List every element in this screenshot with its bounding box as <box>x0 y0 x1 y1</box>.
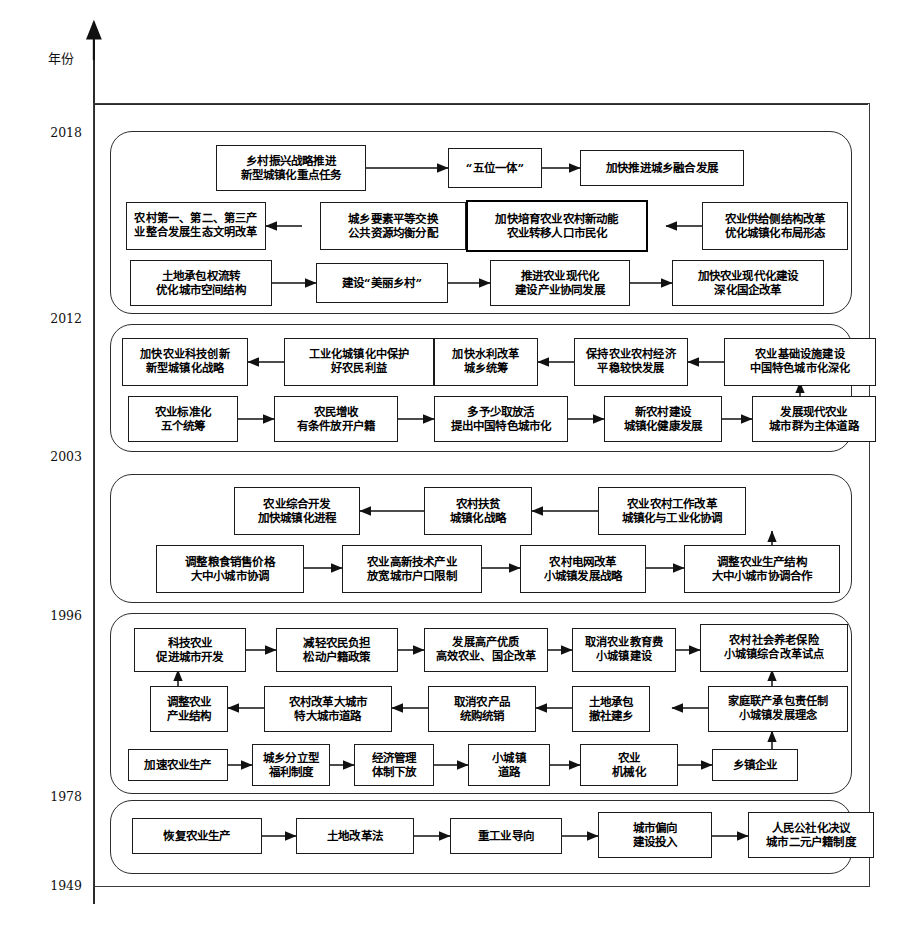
node-line: 提出中国特色城市化 <box>451 419 552 433</box>
node-line: 城乡统筹 <box>452 362 519 376</box>
node-box[interactable]: 工业化城镇化中保护 好农民利益 <box>284 338 434 386</box>
node-box[interactable]: 农业供给侧结构改革 优化城镇化布局形态 <box>702 202 848 250</box>
node-line: 农村扶贫 <box>450 497 506 511</box>
node-box[interactable]: 农业综合开发 加快城镇化进程 <box>234 487 360 535</box>
node-line: 乡镇企业 <box>733 758 778 772</box>
node-line: 多予少取放活 <box>451 405 552 419</box>
node-box[interactable]: 科技农业 促进城市开发 <box>134 628 246 672</box>
node-box[interactable]: 加快水利改革 城乡统筹 <box>434 338 538 386</box>
node-line: 城市群为主体道路 <box>769 419 859 433</box>
node-line: 农民增收 <box>297 405 375 419</box>
node-line: 好农民利益 <box>309 362 410 376</box>
node-box[interactable]: 农业基础设施建设 中国特色城市化深化 <box>724 338 876 386</box>
node-box[interactable]: 加快推进城乡融合发展 <box>580 150 744 186</box>
node-box[interactable]: 恢复农业生产 <box>132 818 262 854</box>
node-box[interactable]: 城乡分立型 福利制度 <box>252 744 330 786</box>
node-box[interactable]: 多予少取放活 提出中国特色城市化 <box>434 396 568 442</box>
node-box[interactable]: 农村电网改革 小城镇发展战略 <box>520 545 646 593</box>
node-box[interactable]: 土地承包 撤社建乡 <box>572 686 650 732</box>
node-box[interactable]: 乡镇企业 <box>712 749 798 781</box>
node-box[interactable]: 农业农村工作改革 城镇化与工业化协调 <box>598 487 746 535</box>
node-box-emphasis[interactable]: 加快培育农业农村新动能 农业转移人口市民化 <box>466 200 648 252</box>
node-box[interactable]: 调整农业 产业结构 <box>150 686 228 732</box>
node-line: 取消农产品 <box>454 695 510 709</box>
node-box[interactable]: 农村改革大城市 特大城市道路 <box>264 686 392 732</box>
node-box[interactable]: 农业 机械化 <box>580 744 678 786</box>
node-box[interactable]: 新农村建设 城镇化健康发展 <box>604 396 722 442</box>
node-line: 有条件放开户籍 <box>297 419 375 433</box>
node-line: 加速农业生产 <box>144 758 211 772</box>
node-line: 建设投入 <box>633 835 678 849</box>
node-line: 小城镇发展理念 <box>728 709 829 723</box>
y-axis-title: 年份 <box>48 48 74 67</box>
node-box[interactable]: 发展高产优质 高效农业、国企改革 <box>424 628 548 672</box>
node-line: 福利制度 <box>263 765 319 779</box>
node-line: 土地承包权流转 <box>156 269 246 283</box>
node-line: 土地承包 <box>589 695 634 709</box>
node-box[interactable]: 推进农业现代化 建设产业协同发展 <box>490 260 630 306</box>
node-line: 机械化 <box>612 765 646 779</box>
node-line: 加快农业科技创新 <box>140 348 230 362</box>
node-box[interactable]: 取消农业教育费 小城镇建设 <box>572 628 676 672</box>
node-line: 经济管理 <box>372 751 417 765</box>
node-box[interactable]: 人民公社化决议 城市二元户籍制度 <box>748 812 874 858</box>
node-line: 家庭联产承包责任制 <box>728 695 829 709</box>
node-line: 大中小城市协调 <box>185 569 275 583</box>
node-box[interactable]: 农民增收 有条件放开户籍 <box>274 396 398 442</box>
node-box[interactable]: 乡村振兴战略推进 新型城镇化重点任务 <box>216 145 366 191</box>
node-box[interactable]: 加速农业生产 <box>128 749 228 781</box>
node-line: 农村社会养老保险 <box>724 634 825 648</box>
node-line: 小城镇综合改革试点 <box>724 648 825 662</box>
node-line: 新型城镇化重点任务 <box>241 168 342 182</box>
node-box[interactable]: 加快农业科技创新 新型城镇化战略 <box>122 338 248 386</box>
node-line: 统购统销 <box>454 709 510 723</box>
node-box[interactable]: 农业高新技术产业 放宽城市户口限制 <box>342 545 482 593</box>
node-box[interactable]: 保持农业农村经济 平稳较快发展 <box>574 338 688 386</box>
node-box[interactable]: 城市偏向 建设投入 <box>598 812 712 858</box>
node-box[interactable]: 加快农业现代化建设 深化国企改革 <box>672 260 824 306</box>
node-line: 中国特色城市化深化 <box>750 362 851 376</box>
node-box[interactable]: 经济管理 体制下放 <box>354 744 434 786</box>
node-line: 体制下放 <box>372 765 417 779</box>
node-line: 优化城镇化布局形态 <box>725 226 826 240</box>
node-line: 推进农业现代化 <box>515 269 605 283</box>
node-line: 加快水利改革 <box>452 348 519 362</box>
node-line: 放宽城市户口限制 <box>367 569 457 583</box>
node-line: 城乡要素平等交换 <box>348 212 438 226</box>
node-line: 城镇化与工业化协调 <box>622 511 723 525</box>
node-box[interactable]: 农业标准化 五个统筹 <box>128 396 238 442</box>
node-box[interactable]: 小城镇 道路 <box>468 744 550 786</box>
node-box[interactable]: 发展现代农业 城市群为主体道路 <box>752 396 876 442</box>
node-line: 科技农业 <box>156 636 223 650</box>
node-line: 减轻农民负担 <box>303 636 370 650</box>
node-line: 城市偏向 <box>633 821 678 835</box>
node-box[interactable]: 取消农产品 统购统销 <box>428 686 536 732</box>
node-line: 城乡分立型 <box>263 751 319 765</box>
node-line: 加快推进城乡融合发展 <box>606 161 718 175</box>
node-box[interactable]: 城乡要素平等交换 公共资源均衡分配 <box>320 202 466 250</box>
node-line: 土地改革法 <box>327 829 383 843</box>
node-line: 重工业导向 <box>478 829 534 843</box>
node-line: “五位一体” <box>466 161 524 175</box>
year-tick-1949: 1949 <box>36 878 82 893</box>
node-box[interactable]: 农村社会养老保险 小城镇综合改革试点 <box>700 624 848 672</box>
node-line: 发展高产优质 <box>436 636 537 650</box>
node-box[interactable]: 家庭联产承包责任制 小城镇发展理念 <box>708 686 848 732</box>
node-box[interactable]: 调整粮食销售价格 大中小城市协调 <box>156 545 304 593</box>
node-line: 小城镇 <box>492 751 526 765</box>
node-line: 人民公社化决议 <box>766 821 856 835</box>
node-line: 调整粮食销售价格 <box>185 555 275 569</box>
node-line: 农业高新技术产业 <box>367 555 457 569</box>
node-box[interactable]: “五位一体” <box>448 148 542 188</box>
node-box[interactable]: 减轻农民负担 松动户籍政策 <box>276 628 398 672</box>
node-box[interactable]: 土地承包权流转 优化城市空间结构 <box>130 260 272 306</box>
node-box[interactable]: 农村第一、第二、第三产 业整合发展生态文明改革 <box>126 202 266 250</box>
node-line: 深化国企改革 <box>698 283 799 297</box>
node-box[interactable]: 重工业导向 <box>450 818 562 854</box>
node-box[interactable]: 建设“美丽乡村” <box>316 263 448 303</box>
node-box[interactable]: 农村扶贫 城镇化战略 <box>424 487 532 535</box>
node-line: 农业供给侧结构改革 <box>725 212 826 226</box>
node-line: 业整合发展生态文明改革 <box>134 226 257 240</box>
node-box[interactable]: 调整农业生产结构 大中小城市协调合作 <box>684 545 840 593</box>
node-box[interactable]: 土地改革法 <box>296 818 414 854</box>
